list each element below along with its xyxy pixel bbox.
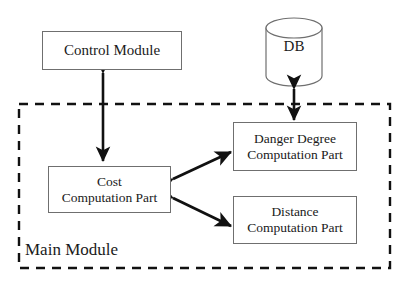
danger-part-label-line1: Danger Degree: [254, 131, 336, 147]
node-danger-degree-computation-part[interactable]: Danger Degree Computation Part: [233, 122, 357, 171]
node-distance-computation-part[interactable]: Distance Computation Part: [233, 196, 357, 244]
connector-cost-to-danger: [173, 152, 231, 179]
connector-cost-to-distance: [173, 198, 231, 226]
node-cost-computation-part[interactable]: Cost Computation Part: [48, 166, 171, 213]
danger-part-label-line2: Computation Part: [247, 147, 343, 163]
diagram-canvas: Control Module DB Danger Degree Computat…: [0, 0, 409, 288]
distance-part-label-line1: Distance: [271, 204, 318, 220]
node-control-module[interactable]: Control Module: [42, 31, 182, 70]
distance-part-label-line2: Computation Part: [247, 220, 343, 236]
cost-part-label-line2: Computation Part: [62, 190, 158, 206]
db-label: DB: [266, 38, 322, 55]
cost-part-label-line1: Cost: [97, 174, 122, 190]
control-module-label: Control Module: [64, 42, 160, 60]
main-module-label: Main Module: [25, 240, 118, 260]
